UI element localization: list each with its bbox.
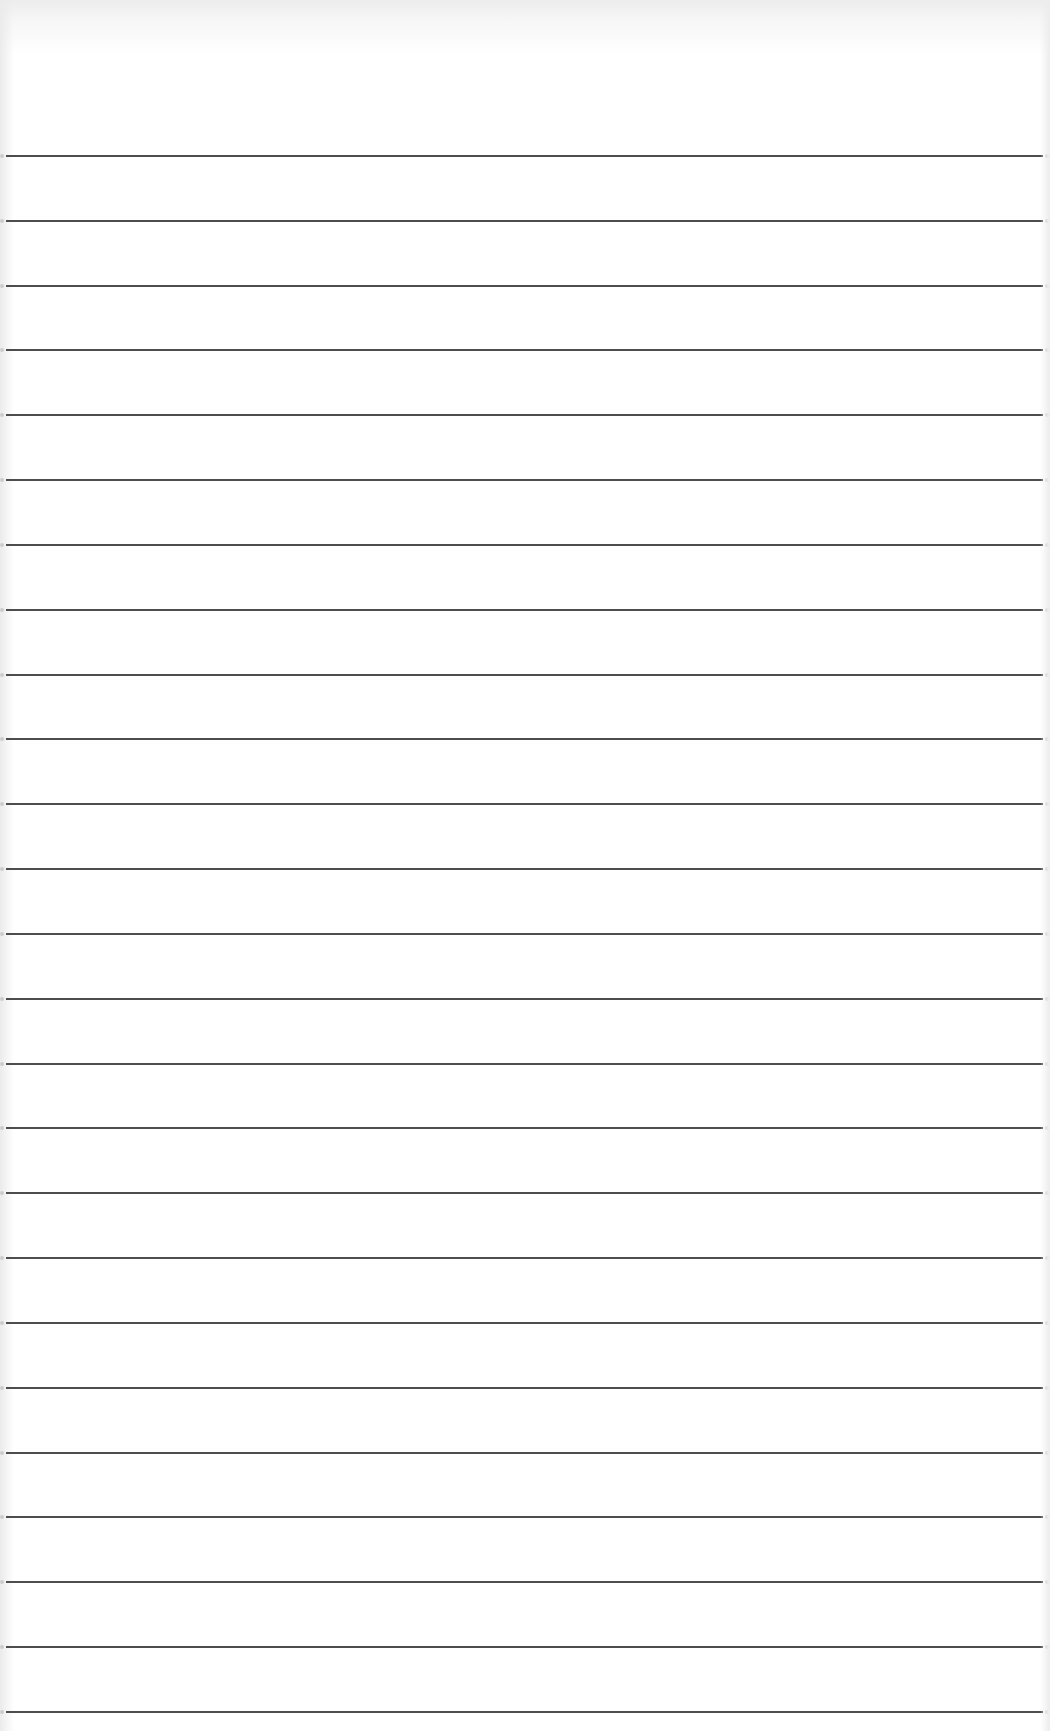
line-end-mark [1045,1580,1049,1584]
line-end-mark [1045,737,1049,741]
ruled-line [6,285,1043,287]
ruled-line [6,220,1043,222]
ruled-line [6,1646,1043,1648]
ruled-line [6,544,1043,546]
line-end-mark [0,1386,4,1390]
line-end-mark [1045,1191,1049,1195]
ruled-line [6,1063,1043,1065]
line-end-mark [0,284,4,288]
ruled-line [6,349,1043,351]
line-end-mark [0,737,4,741]
ruled-line [6,1452,1043,1454]
ruled-line [6,1387,1043,1389]
line-end-mark [0,608,4,612]
line-end-mark [0,154,4,158]
line-end-mark [0,1256,4,1260]
line-end-mark [0,1321,4,1325]
ruled-line [6,1516,1043,1518]
ruled-line [6,155,1043,157]
line-end-mark [0,867,4,871]
line-end-mark [0,478,4,482]
ruled-line [6,479,1043,481]
line-end-mark [1045,1515,1049,1519]
line-end-mark [1045,802,1049,806]
line-end-mark [0,413,4,417]
line-end-mark [0,802,4,806]
line-end-mark [1045,348,1049,352]
ruled-line [6,1257,1043,1259]
line-end-mark [0,1710,4,1714]
line-end-mark [0,1645,4,1649]
line-end-mark [0,1126,4,1130]
line-end-mark [1045,478,1049,482]
ruled-line [6,1711,1043,1713]
line-end-mark [1045,1256,1049,1260]
line-end-mark [0,997,4,1001]
line-end-mark [0,1062,4,1066]
line-end-mark [1045,543,1049,547]
line-end-mark [1045,219,1049,223]
ruled-line [6,1127,1043,1129]
line-end-mark [1045,1321,1049,1325]
line-end-mark [1045,932,1049,936]
line-end-mark [0,1580,4,1584]
line-end-mark [0,219,4,223]
ruled-line [6,868,1043,870]
line-end-mark [1045,673,1049,677]
ruled-line [6,1322,1043,1324]
ruled-line [6,1581,1043,1583]
line-end-mark [1045,1645,1049,1649]
line-end-mark [1045,1710,1049,1714]
line-end-mark [1045,867,1049,871]
line-end-mark [1045,1062,1049,1066]
line-end-mark [1045,1386,1049,1390]
ruled-line [6,1192,1043,1194]
line-end-mark [1045,154,1049,158]
line-end-mark [0,348,4,352]
ruled-line [6,414,1043,416]
line-end-mark [1045,413,1049,417]
ruled-line [6,803,1043,805]
line-end-mark [0,932,4,936]
line-end-mark [0,1191,4,1195]
ruled-line [6,609,1043,611]
line-end-mark [1045,1451,1049,1455]
line-end-mark [1045,997,1049,1001]
line-end-mark [1045,1126,1049,1130]
line-end-mark [1045,608,1049,612]
ruled-line [6,738,1043,740]
line-end-mark [0,673,4,677]
ruled-line [6,674,1043,676]
ruled-line [6,933,1043,935]
ruled-paper-sheet [0,0,1050,1731]
line-end-mark [0,1451,4,1455]
line-end-mark [0,1515,4,1519]
line-end-mark [0,543,4,547]
ruled-line [6,998,1043,1000]
line-end-mark [1045,284,1049,288]
